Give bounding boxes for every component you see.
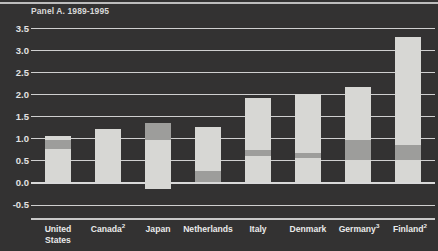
- bar-japan: [145, 123, 171, 189]
- footnote-marker: 3: [376, 222, 379, 229]
- bar-segment-shaded: [345, 140, 371, 160]
- x-axis-category-labels: UnitedStates Canada2 Japan Netherlands I…: [31, 224, 435, 250]
- panel-title: Panel A. 1989-1995: [31, 6, 109, 16]
- category-label-line1: United: [45, 224, 72, 234]
- y-tick-label: 0.5: [3, 155, 29, 166]
- category-label-italy: Italy: [233, 224, 283, 235]
- bar-segment-shaded: [395, 145, 421, 160]
- gridline-2-5: [31, 72, 435, 73]
- category-label-line1: Italy: [249, 224, 266, 234]
- gridline-1-5: [31, 116, 435, 117]
- bar-canada: [95, 129, 121, 182]
- bar-germany: [345, 87, 371, 182]
- y-tick-label: 2.0: [3, 89, 29, 100]
- y-tick-label: 0.0: [3, 177, 29, 188]
- gridline-0-5: [31, 160, 435, 161]
- y-tick-label: 2.5: [3, 67, 29, 78]
- chart-figure: Panel A. 1989-1995 3.5 3.0 2.5 2.0 1.5 1…: [0, 0, 438, 251]
- category-label-japan: Japan: [133, 224, 183, 235]
- bar-segment-shaded: [245, 150, 271, 156]
- category-label-canada: Canada2: [83, 224, 133, 235]
- footnote-marker: 2: [122, 222, 125, 229]
- category-label-germany: Germany3: [333, 224, 385, 235]
- category-label-united-states: UnitedStates: [33, 224, 83, 245]
- bar-segment-shaded: [295, 153, 321, 158]
- category-label-line1: Netherlands: [183, 224, 233, 234]
- bar-finland: [395, 37, 421, 182]
- plot-area: [31, 20, 435, 212]
- zero-axis-line: [31, 182, 435, 184]
- category-label-line1: Canada: [91, 224, 122, 234]
- top-border-rule: [0, 2, 438, 4]
- category-label-line2: States: [45, 235, 71, 245]
- bar-netherlands: [195, 127, 221, 182]
- gridline-2-0: [31, 94, 435, 95]
- y-axis-tick-labels: 3.5 3.0 2.5 2.0 1.5 1.0 0.5 0.0 -0.5: [0, 20, 29, 212]
- bar-denmark: [295, 94, 321, 182]
- category-label-finland: Finland2: [385, 224, 435, 235]
- y-tick-label: 3.0: [3, 45, 29, 56]
- y-tick-label: 1.5: [3, 111, 29, 122]
- footnote-marker: 2: [424, 222, 427, 229]
- bottom-border-rule: [31, 218, 435, 220]
- gridline-3-0: [31, 50, 435, 51]
- category-label-line1: Denmark: [290, 224, 327, 234]
- y-tick-label: 1.0: [3, 133, 29, 144]
- bar-segment-shaded: [195, 171, 221, 182]
- category-label-line1: Germany: [339, 224, 376, 234]
- category-label-line1: Japan: [146, 224, 171, 234]
- gridline-1-0: [31, 138, 435, 139]
- category-label-denmark: Denmark: [283, 224, 333, 235]
- bar-italy: [245, 98, 271, 182]
- gridline-3-5: [31, 28, 435, 29]
- y-tick-label: -0.5: [3, 199, 29, 210]
- bar-segment-shaded: [45, 140, 71, 149]
- gridline-neg-0-5: [31, 205, 435, 206]
- y-tick-label: 3.5: [3, 23, 29, 34]
- category-label-netherlands: Netherlands: [179, 224, 237, 235]
- category-label-line1: Finland: [393, 224, 424, 234]
- bar-segment-shaded: [145, 123, 171, 140]
- bar-united-states: [45, 136, 71, 182]
